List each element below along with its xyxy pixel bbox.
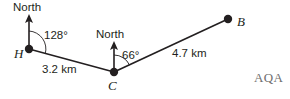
point-marker-b — [224, 15, 232, 23]
distance-label-cb: 4.7 km — [172, 48, 207, 60]
point-label-h: H — [14, 47, 23, 60]
brand-label-aqa: AQA — [254, 71, 283, 84]
north-label-c: North — [96, 29, 124, 41]
north-label-h: North — [13, 2, 41, 14]
north-arrow-c — [110, 41, 118, 72]
angle-label-h: 128° — [44, 30, 68, 42]
distance-label-hc: 3.2 km — [42, 64, 77, 76]
point-label-b: B — [237, 15, 245, 28]
point-label-c: C — [108, 79, 117, 92]
angle-label-c: 66° — [122, 50, 139, 62]
point-marker-h — [25, 45, 33, 53]
point-marker-c — [110, 68, 118, 76]
diagram-canvas — [0, 0, 290, 99]
bearings-diagram: North North 128° 66° 3.2 km 4.7 km H C B… — [0, 0, 290, 99]
segment-cb — [114, 19, 228, 72]
